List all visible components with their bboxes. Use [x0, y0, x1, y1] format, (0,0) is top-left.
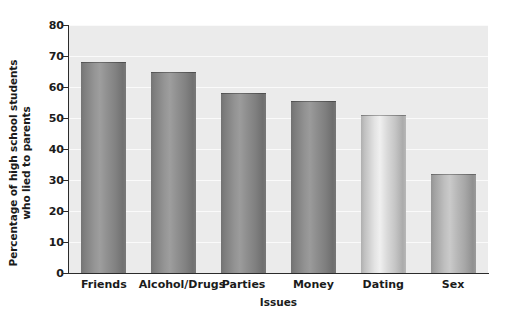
y-axis-title-line-2: who lied to parents [20, 60, 33, 267]
bar-money [291, 101, 336, 273]
x-axis-tick-label: Dating [348, 278, 418, 292]
bar-chart: Percentage of high school students who l… [0, 0, 510, 326]
y-axis-tick-label: 20 [34, 206, 64, 217]
bar-body [361, 115, 406, 273]
x-axis-title: Issues [69, 296, 488, 308]
bar-body [431, 174, 476, 273]
bar-body [81, 62, 126, 273]
bar-body [151, 72, 196, 274]
y-axis-tick-labels: 01020304050607080 [34, 0, 64, 326]
x-axis-tick-labels: FriendsAlcohol/DrugsPartiesMoneyDatingSe… [69, 278, 488, 296]
bar-top-edge [431, 174, 476, 175]
bar-top-edge [291, 101, 336, 102]
y-axis-tick-label: 80 [34, 20, 64, 31]
y-axis-tick-label: 30 [34, 175, 64, 186]
bar-top-edge [151, 72, 196, 73]
plot-area [69, 25, 488, 273]
bar-top-edge [221, 93, 266, 94]
y-axis-title-line-1: Percentage of high school students [7, 60, 20, 267]
y-axis-tick-label: 60 [34, 82, 64, 93]
bar-sex [431, 174, 476, 273]
y-axis-tick-label: 0 [34, 268, 64, 279]
bars-layer [69, 25, 488, 273]
bar-dating [361, 115, 406, 273]
bar-body [221, 93, 266, 273]
y-axis-tick-label: 40 [34, 144, 64, 155]
x-axis-tick-label: Sex [418, 278, 488, 292]
x-axis-tick-label: Alcohol/Drugs [139, 278, 209, 292]
y-axis-tick-label: 50 [34, 113, 64, 124]
bar-alcohol-drugs [151, 72, 196, 274]
x-axis-tick-label: Parties [209, 278, 279, 292]
bar-top-edge [361, 115, 406, 116]
bar-parties [221, 93, 266, 273]
x-axis-tick-label: Friends [69, 278, 139, 292]
y-axis-tick-label: 70 [34, 51, 64, 62]
bar-body [291, 101, 336, 273]
bar-top-edge [81, 62, 126, 63]
y-axis-line [68, 25, 69, 274]
y-axis-tick-label: 10 [34, 237, 64, 248]
x-axis-line [68, 273, 489, 274]
x-axis-tick-label: Money [279, 278, 349, 292]
bar-friends [81, 62, 126, 273]
